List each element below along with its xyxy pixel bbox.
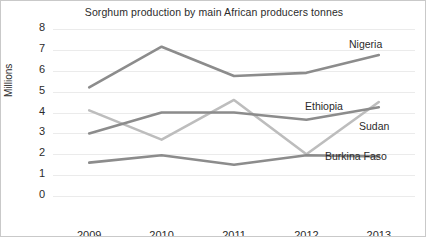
x-tick-2011: 2011: [204, 229, 264, 237]
y-tick-3: 3: [21, 125, 45, 137]
y-axis-title: Millions: [3, 64, 14, 97]
series-lines: [53, 29, 415, 196]
chart-title: Sorghum production by main African produ…: [1, 6, 426, 18]
x-tick-2013: 2013: [349, 229, 409, 237]
y-tick-0: 0: [21, 188, 45, 200]
x-tick-2009: 2009: [59, 229, 119, 237]
y-tick-8: 8: [21, 21, 45, 33]
series-label-nigeria: Nigeria: [349, 38, 382, 50]
y-tick-6: 6: [21, 63, 45, 75]
y-tick-4: 4: [21, 105, 45, 117]
x-tick-2012: 2012: [276, 229, 336, 237]
gridline-0: [53, 196, 415, 197]
series-label-sudan: Sudan: [359, 120, 389, 132]
y-tick-2: 2: [21, 146, 45, 158]
plot-area: Nigeria Ethiopia Sudan Burkina Faso 2009…: [53, 29, 415, 196]
chart-container: Sorghum production by main African produ…: [0, 0, 426, 237]
y-tick-7: 7: [21, 42, 45, 54]
series-label-ethiopia: Ethiopia: [305, 100, 343, 112]
series-label-burkina-faso: Burkina Faso: [325, 150, 387, 162]
x-tick-2010: 2010: [132, 229, 192, 237]
y-tick-5: 5: [21, 84, 45, 96]
y-tick-1: 1: [21, 167, 45, 179]
line-nigeria: [89, 47, 379, 88]
